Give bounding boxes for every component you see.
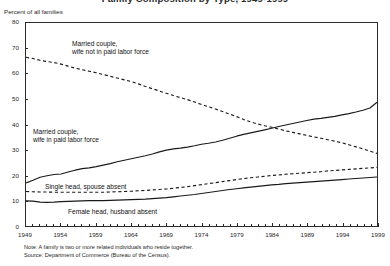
x-axis-tick-label: 1989 [294,232,320,238]
y-axis-tick-label: 0 [3,224,19,230]
x-axis-tick-mark [46,224,47,227]
x-axis-tick-mark [180,224,181,227]
series-label-female-head: Female head, husband absent [68,208,157,216]
y-axis-tick-label: 80 [3,19,19,25]
family-composition-chart: Family Composition by Type, 1949-1999 Pe… [0,0,390,266]
series-label-married-wife-not-in-labor-force: Married couple, wife not in paid labor f… [72,40,149,57]
x-axis-tick-mark [32,224,33,227]
x-axis-tick-mark [329,224,330,227]
y-axis-tick-label: 20 [3,173,19,179]
y-axis-tick-label: 10 [3,198,19,204]
series-label-married-wife-in-labor-force: Married couple, wife in paid labor force [33,128,99,145]
x-axis-tick-mark [103,224,104,227]
series-label-single-head: Single head, spouse absent [45,183,126,191]
x-axis-tick-mark [209,224,210,227]
chart-title: Family Composition by Type, 1949-1999 [0,0,390,5]
x-axis-tick-mark [350,224,351,227]
x-axis-tick-mark [96,223,97,227]
x-axis-tick-mark [244,224,245,227]
x-axis-tick-label: 1949 [12,232,38,238]
x-axis-tick-mark [314,224,315,227]
x-axis-tick-label: 1994 [330,232,356,238]
x-axis-tick-mark [300,224,301,227]
x-axis-tick-mark [159,224,160,227]
x-axis-tick-mark [187,224,188,227]
x-axis-tick-mark [237,223,238,227]
x-axis-tick-mark [343,223,344,227]
x-axis-tick-mark [166,223,167,227]
x-axis-tick-label: 1984 [259,232,285,238]
x-axis-tick-mark [152,224,153,227]
x-axis-tick-mark [145,224,146,227]
x-axis-tick-label: 1999 [365,232,390,238]
x-axis-tick-mark [223,224,224,227]
y-axis-tick-label: 60 [3,70,19,76]
x-axis-tick-mark [39,224,40,227]
x-axis-tick-mark [74,224,75,227]
x-axis-tick-label: 1969 [153,232,179,238]
x-axis-tick-mark [67,224,68,227]
x-axis-tick-mark [322,224,323,227]
x-axis-tick-mark [364,224,365,227]
x-axis-tick-mark [138,224,139,227]
x-axis-tick-mark [117,224,118,227]
x-axis-tick-label: 1964 [118,232,144,238]
x-axis-tick-mark [53,224,54,227]
x-axis-tick-mark [131,223,132,227]
x-axis-tick-mark [173,224,174,227]
x-axis-tick-mark [357,224,358,227]
x-axis-tick-mark [194,224,195,227]
x-axis-tick-mark [124,224,125,227]
y-axis-tick-label: 70 [3,45,19,51]
x-axis-tick-mark [230,224,231,227]
y-axis-tick-label: 30 [3,147,19,153]
x-axis-tick-mark [110,224,111,227]
x-axis-tick-mark [258,224,259,227]
x-axis-tick-mark [378,223,379,227]
x-axis-tick-mark [81,224,82,227]
footnote-source: Source: Department of Commerce (Bureau o… [24,251,193,259]
footnote-note: Note: A family is two or more related in… [24,243,193,251]
x-axis-tick-mark [279,224,280,227]
x-axis-tick-mark [60,223,61,227]
x-axis-tick-mark [307,223,308,227]
y-axis-caption: Percent of all families [4,8,63,15]
x-axis-tick-mark [251,224,252,227]
x-axis-tick-label: 1954 [47,232,73,238]
y-axis-tick-label: 50 [3,96,19,102]
x-axis-tick-mark [272,223,273,227]
x-axis-tick-label: 1959 [83,232,109,238]
x-axis-tick-mark [286,224,287,227]
x-axis-tick-mark [89,224,90,227]
x-axis-tick-mark [202,223,203,227]
x-axis-tick-label: 1979 [224,232,250,238]
x-axis-tick-mark [265,224,266,227]
x-axis-tick-mark [371,224,372,227]
x-axis-tick-mark [216,224,217,227]
x-axis-tick-mark [293,224,294,227]
footnotes: Note: A family is two or more related in… [24,243,193,259]
x-axis-tick-mark [336,224,337,227]
x-axis-tick-mark [25,223,26,227]
x-axis-tick-label: 1974 [189,232,215,238]
y-axis-tick-label: 40 [3,122,19,128]
